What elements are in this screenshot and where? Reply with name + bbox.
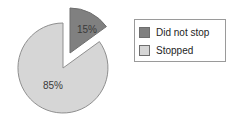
legend-swatch-icon-did-not-stop: [139, 27, 150, 38]
legend-item-did-not-stop[interactable]: Did not stop: [139, 23, 225, 41]
pie-chart-graphic: 15% 85%: [0, 0, 131, 130]
slice-label-stopped: 85%: [43, 80, 63, 91]
legend-label-did-not-stop: Did not stop: [156, 27, 209, 38]
legend-swatch-icon-stopped: [139, 45, 150, 56]
legend-item-stopped[interactable]: Stopped: [139, 41, 225, 59]
chart-legend: Did not stop Stopped: [134, 19, 226, 62]
pie-chart-figure: 15% 85% Did not stop Stopped: [0, 0, 231, 130]
pie-slice-stopped[interactable]: [18, 23, 108, 113]
slice-label-did-not-stop: 15%: [77, 24, 97, 35]
legend-label-stopped: Stopped: [156, 45, 193, 56]
